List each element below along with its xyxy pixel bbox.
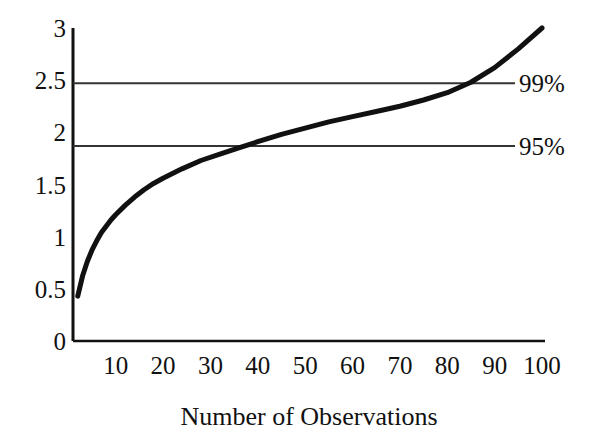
reference-line-labels-group: 99%95% [519,70,565,160]
reference-line-label-99pct: 99% [519,70,565,97]
x-axis-title: Number of Observations [180,402,437,431]
y-tick-label: 0 [54,328,67,355]
y-tick-label: 1 [54,224,67,251]
x-tick-label: 20 [151,352,176,379]
reference-line-label-95pct: 95% [519,133,565,160]
y-tick-label: 1.5 [35,172,66,199]
y-tick-label: 3 [54,15,67,42]
line-chart: 00.511.522.53 102030405060708090100 99%9… [0,0,603,443]
x-tick-label: 50 [293,352,318,379]
x-tick-label: 70 [387,352,412,379]
x-tick-label: 40 [245,352,270,379]
x-tick-label: 100 [523,352,561,379]
chart-page: 00.511.522.53 102030405060708090100 99%9… [0,0,603,443]
x-tick-label: 60 [340,352,365,379]
series-line-0 [78,28,542,296]
series-group [78,28,542,296]
x-tick-label: 30 [198,352,223,379]
x-tick-label: 80 [435,352,460,379]
y-tick-label: 2 [54,119,67,146]
x-tick-label: 90 [482,352,507,379]
y-tick-labels-group: 00.511.522.53 [35,15,66,355]
x-tick-labels-group: 102030405060708090100 [103,352,561,379]
y-tick-label: 0.5 [35,276,66,303]
y-tick-label: 2.5 [35,67,66,94]
x-tick-label: 10 [103,352,128,379]
